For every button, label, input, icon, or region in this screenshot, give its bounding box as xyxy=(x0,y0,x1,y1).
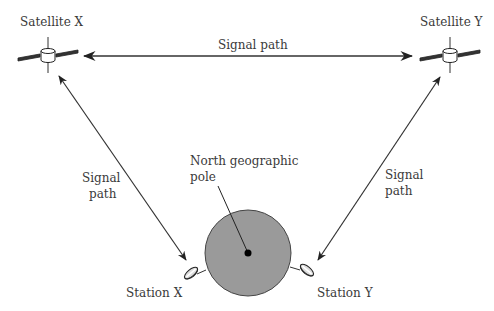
station-y-dish-icon xyxy=(290,262,315,278)
signal-path-right-label-line1: Signal xyxy=(385,168,423,182)
north-pole-dot xyxy=(245,250,252,257)
signal-path-left-arrow xyxy=(59,76,186,260)
satellite-x-label: Satellite X xyxy=(20,15,83,29)
station-y-label: Station Y xyxy=(317,286,373,300)
satellite-y-label: Satellite Y xyxy=(420,15,482,29)
signal-path-left-label-line1: Signal xyxy=(82,171,120,185)
signal-path-left-label-line2: path xyxy=(89,187,116,201)
north-pole-label-line2: pole xyxy=(190,170,216,184)
signal-path-top-label: Signal path xyxy=(218,38,288,52)
station-x-dish-icon xyxy=(183,265,206,281)
station-x-label: Station X xyxy=(126,286,182,300)
satellite-x-icon xyxy=(18,37,78,73)
north-pole-label-line1: North geographic xyxy=(190,154,298,168)
signal-path-right-label-line2: path xyxy=(385,184,412,198)
satellite-y-icon xyxy=(420,37,480,73)
